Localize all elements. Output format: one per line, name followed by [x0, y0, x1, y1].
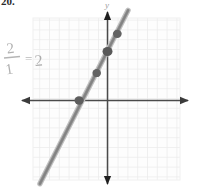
y-axis-label: y — [104, 0, 109, 10]
data-point — [92, 69, 101, 77]
data-point — [103, 47, 113, 56]
data-point — [113, 30, 122, 38]
problem-number: 20. — [1, 0, 15, 7]
svg-text:y: y — [104, 0, 109, 10]
slope-numerator: 2 — [6, 40, 15, 57]
slope-result: 2 — [34, 51, 43, 69]
fraction-bar — [4, 57, 20, 59]
slope-denominator: 1 — [4, 61, 14, 78]
equals-sign: = — [25, 51, 32, 66]
coordinate-plane-figure: y 2 1 = 2 — [0, 0, 197, 190]
data-point — [74, 96, 83, 104]
graph-canvas: 20. — [0, 0, 197, 190]
